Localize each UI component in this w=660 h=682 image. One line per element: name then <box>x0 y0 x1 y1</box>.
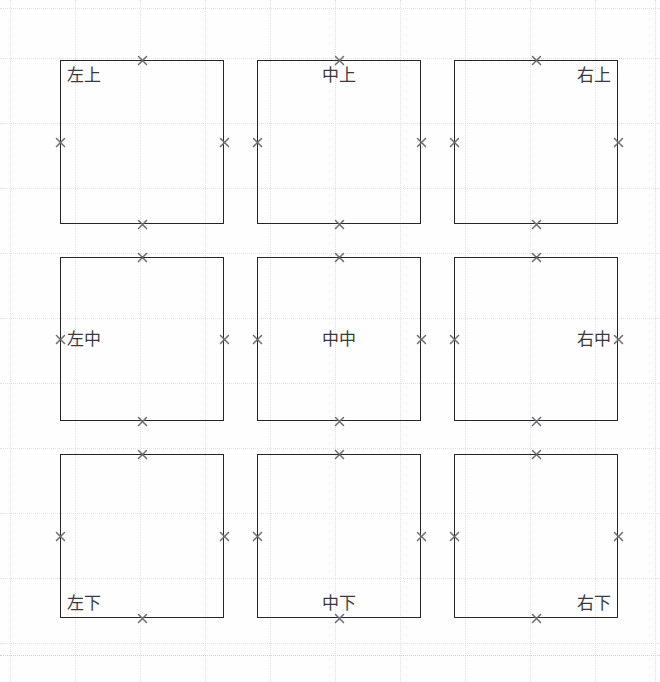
cell-box: 中中 <box>257 257 421 421</box>
cell-label: 中中 <box>264 329 414 349</box>
cell-box: 中上 <box>257 60 421 224</box>
cell-label: 右上 <box>461 65 611 85</box>
cell-label: 左上 <box>67 65 217 85</box>
cell-label: 中下 <box>264 593 414 613</box>
diagram-canvas: 左上中上右上左中中中右中左下中下右下 <box>0 0 660 682</box>
cell-label: 右下 <box>461 593 611 613</box>
cell-box: 右下 <box>454 454 618 618</box>
cell-box: 左下 <box>60 454 224 618</box>
cell-grid: 左上中上右上左中中中右中左下中下右下 <box>0 0 660 682</box>
cell-box: 中下 <box>257 454 421 618</box>
cell-box: 左中 <box>60 257 224 421</box>
cell-label: 右中 <box>461 329 611 349</box>
cell-label: 左下 <box>67 593 217 613</box>
cell-label: 左中 <box>67 329 217 349</box>
cell-label: 中上 <box>264 65 414 85</box>
cell-box: 左上 <box>60 60 224 224</box>
cell-box: 右上 <box>454 60 618 224</box>
cell-box: 右中 <box>454 257 618 421</box>
